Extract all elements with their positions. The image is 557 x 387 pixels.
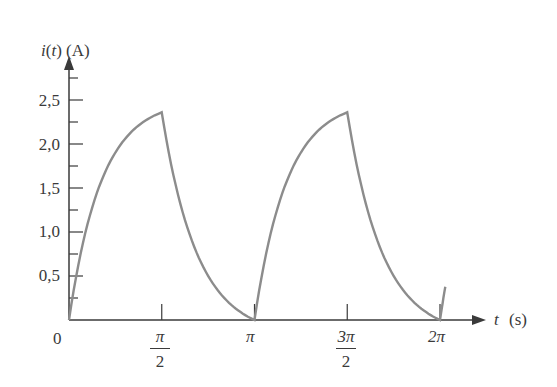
fraction-numerator: π: [150, 327, 170, 349]
y-tick-label: 2,5: [20, 92, 60, 109]
fraction-numerator: 3π: [336, 327, 356, 349]
y-tick-label: 0,5: [20, 267, 60, 284]
origin-label: 0: [53, 330, 62, 347]
x-tick-label-pi: π: [246, 328, 255, 345]
x-tick-label-2pi: 2π: [428, 328, 445, 345]
x-tick-label-3pi-half: 3π 2: [326, 327, 366, 372]
x-axis-unit: (s): [509, 310, 527, 329]
x-axis-arrow-icon: [472, 315, 486, 325]
y-axis-label: i(t) (A): [41, 42, 90, 59]
y-ticks: [69, 78, 83, 298]
x-tick-label-pi-half: π 2: [140, 327, 180, 372]
current-curve: [69, 112, 445, 320]
y-tick-label: 1,0: [20, 223, 60, 240]
x-ticks: [162, 304, 440, 320]
x-axis-variable: t: [494, 310, 499, 329]
fraction-denominator: 2: [326, 349, 366, 372]
y-tick-label: 2,0: [20, 136, 60, 153]
y-tick-label: 1,5: [20, 180, 60, 197]
fraction-denominator: 2: [140, 349, 180, 372]
x-axis-label: t (s): [494, 311, 527, 328]
